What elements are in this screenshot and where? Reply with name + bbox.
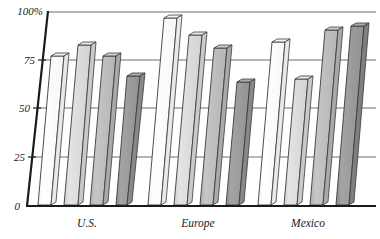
bar-europe-series-3 — [200, 45, 232, 205]
bar-us-series-4 — [116, 73, 145, 205]
bar-groups — [38, 15, 369, 205]
bar-chart: 100% 75 50 25 0 U.S. Europe Mexico — [0, 0, 380, 239]
chart-canvas: 100% 75 50 25 0 U.S. Europe Mexico — [0, 0, 380, 239]
bar-mexico-series-2 — [284, 76, 313, 205]
category-label-europe: Europe — [180, 217, 214, 230]
category-label-us: U.S. — [77, 217, 97, 229]
x-axis-category-labels: U.S. Europe Mexico — [77, 217, 325, 230]
y-tick-label-25: 25 — [14, 151, 26, 163]
bar-group-europe — [148, 15, 255, 205]
bar-europe-series-4 — [226, 79, 255, 205]
bar-group-us — [38, 42, 145, 205]
bar-mexico-series-1 — [258, 39, 290, 205]
y-tick-label-75: 75 — [24, 54, 36, 66]
bar-group-mexico — [258, 23, 369, 205]
y-tick-label-0: 0 — [15, 200, 21, 212]
y-tick-label-100: 100% — [17, 5, 43, 17]
y-tick-label-50: 50 — [19, 102, 31, 114]
bar-us-series-1 — [38, 53, 69, 205]
bar-us-series-3 — [90, 53, 121, 205]
bar-us-series-2 — [64, 42, 96, 205]
category-label-mexico: Mexico — [290, 217, 325, 229]
